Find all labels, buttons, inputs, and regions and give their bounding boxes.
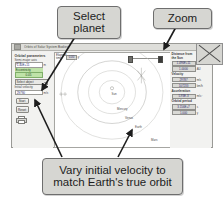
callout-zoom-text: Zoom <box>168 13 197 25</box>
callout-select-planet: Select planet <box>57 6 121 39</box>
orbital-period-unit-y: y <box>197 111 198 115</box>
sun-label: Sun <box>112 92 117 96</box>
velocity-heading: Velocity <box>172 73 212 76</box>
label-mars: Mars <box>151 138 157 142</box>
label-venus: Venus <box>125 116 133 120</box>
print-label: print <box>16 62 21 65</box>
distance-unit-au: AU <box>197 67 201 71</box>
callout-vary-line2: match Earth's true orbit <box>53 177 172 189</box>
velocity-value-kmh: 107233 <box>172 83 196 88</box>
orbit-diagram <box>55 53 170 147</box>
label-earth: Earth <box>135 125 142 129</box>
close-x-icon[interactable] <box>196 43 223 65</box>
semi-major-axis-unit: m <box>44 63 46 67</box>
callout-select-planet-line1: Select <box>73 11 105 23</box>
window-titlebar[interactable]: Orbits of Solar System Bodies <box>12 44 212 51</box>
initial-velocity-value: 29790 <box>16 91 26 95</box>
orbital-period-heading: Orbital period <box>172 100 212 103</box>
eccentricity-value: 0.05 <box>26 73 32 77</box>
distance-heading-line2: the Sun <box>172 56 183 60</box>
distance-value-au: 1.0000 <box>172 66 196 71</box>
initial-velocity-input[interactable]: 29790 <box>15 90 43 96</box>
right-readout-panel: Distance from the Sun 1.496E+11 m 1.0000… <box>170 52 211 148</box>
acceleration-value: 5.93E-3 <box>172 94 196 99</box>
callout-select-planet-line2: planet <box>73 23 104 35</box>
velocity-value-ms: 29787 <box>172 77 196 82</box>
reset-button[interactable]: Reset <box>16 106 29 112</box>
orbital-period-value-s: 3.156E+7 <box>172 104 196 109</box>
application-window: Orbits of Solar System Bodies Orbital pa… <box>11 43 213 148</box>
acceleration-heading: Acceleration <box>172 90 212 93</box>
printer-icon[interactable] <box>16 116 25 123</box>
select-object-value: Select object <box>17 80 34 84</box>
label-mercury: Mercury <box>117 107 127 111</box>
left-tick-marker <box>59 92 67 96</box>
window-title: Orbits of Solar System Bodies <box>24 45 68 49</box>
eccentricity-input[interactable]: 0.05 <box>15 72 43 78</box>
app-icon <box>14 44 21 50</box>
start-button[interactable]: Start <box>16 98 29 104</box>
initial-velocity-label: Initial velocity <box>15 85 54 89</box>
orbit-mars <box>61 53 163 139</box>
distance-value-m: 1.496E+11 <box>172 61 196 66</box>
acceleration-unit: m/s² <box>197 94 202 98</box>
callout-vary-line1: Vary initial velocity to <box>59 165 166 177</box>
sun-marker <box>110 87 113 90</box>
callout-vary-velocity: Vary initial velocity to match Earth's t… <box>42 158 183 195</box>
orbital-parameters-heading: Orbital parameters <box>15 54 54 58</box>
screenshot-root: Orbits of Solar System Bodies Orbital pa… <box>0 0 224 199</box>
left-control-panel: Orbital parameters Semi-major axis 1.40E… <box>13 52 53 148</box>
orbital-period-value-y: 1.000 <box>172 110 196 115</box>
callout-zoom: Zoom <box>153 8 212 29</box>
orbital-period-unit-s: s <box>197 105 198 109</box>
orbit-canvas[interactable]: Elapsed time 0.00 y <box>54 52 171 148</box>
select-object-dropdown[interactable]: Select object <box>15 79 48 85</box>
chevron-down-icon <box>44 82 46 83</box>
velocity-unit-kmh: km/h <box>197 84 203 88</box>
velocity-unit-ms: m/s <box>197 78 202 82</box>
initial-velocity-unit: m/s <box>44 91 49 95</box>
